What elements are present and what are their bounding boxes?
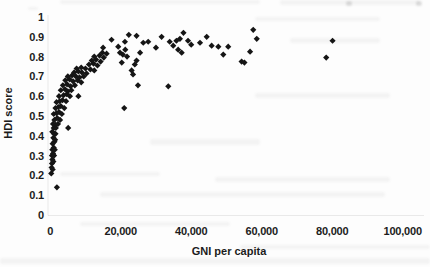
y-tick-label: 0 bbox=[38, 209, 44, 221]
data-point-marker bbox=[121, 105, 127, 111]
data-point-marker bbox=[115, 44, 121, 50]
x-tick-label: 60,000 bbox=[245, 225, 278, 237]
data-point-marker bbox=[247, 49, 253, 55]
data-point-marker bbox=[122, 39, 128, 45]
data-point-marker bbox=[140, 40, 146, 46]
data-point-marker bbox=[220, 52, 226, 58]
data-point-marker bbox=[82, 65, 88, 71]
y-axis-tick-labels: 00.10.20.30.40.50.60.70.80.91 bbox=[29, 11, 45, 221]
x-tick-label: 80,000 bbox=[316, 225, 349, 237]
y-tick-label: 0.3 bbox=[29, 150, 44, 162]
data-point-marker bbox=[215, 44, 221, 50]
data-point-marker bbox=[108, 37, 114, 43]
data-point-marker bbox=[100, 45, 106, 51]
data-point-marker bbox=[197, 40, 203, 46]
y-tick-label: 0.7 bbox=[29, 70, 44, 82]
data-point-marker bbox=[153, 45, 159, 51]
data-point-marker bbox=[65, 125, 71, 131]
y-tick-label: 0.6 bbox=[29, 90, 44, 102]
x-tick-label: 20,000 bbox=[104, 225, 137, 237]
data-point-marker bbox=[204, 34, 210, 40]
x-tick-label: 100,000 bbox=[384, 225, 422, 237]
data-point-marker bbox=[180, 30, 186, 36]
y-tick-label: 1 bbox=[38, 11, 44, 23]
x-tick-label: 40,000 bbox=[175, 225, 208, 237]
data-point-marker bbox=[329, 38, 335, 44]
data-point-marker bbox=[254, 36, 260, 42]
data-points bbox=[48, 27, 335, 191]
data-point-marker bbox=[250, 27, 256, 33]
data-point-marker bbox=[323, 54, 329, 60]
scatter-plot: 00.10.20.30.40.50.60.70.80.91 020,00040,… bbox=[0, 0, 430, 267]
y-tick-label: 0.8 bbox=[29, 51, 44, 63]
data-point-marker bbox=[137, 50, 143, 56]
data-point-marker bbox=[225, 44, 231, 50]
data-point-marker bbox=[209, 43, 215, 49]
hdi-gni-scatter-chart: 00.10.20.30.40.50.60.70.80.91 020,00040,… bbox=[0, 0, 430, 267]
data-point-marker bbox=[119, 59, 125, 65]
y-tick-label: 0.1 bbox=[29, 189, 44, 201]
data-point-marker bbox=[133, 33, 139, 39]
data-point-marker bbox=[167, 39, 173, 45]
data-point-marker bbox=[54, 184, 60, 190]
data-point-marker bbox=[170, 43, 176, 49]
data-point-marker bbox=[158, 34, 164, 40]
x-axis-tick-labels: 020,00040,00060,00080,000100,000 bbox=[47, 225, 422, 237]
y-axis-title: HDI score bbox=[2, 87, 14, 138]
y-tick-label: 0.4 bbox=[29, 130, 45, 142]
y-tick-label: 0.5 bbox=[29, 110, 44, 122]
x-tick-label: 0 bbox=[47, 225, 53, 237]
data-point-marker bbox=[165, 83, 171, 89]
data-point-marker bbox=[56, 93, 62, 99]
data-point-marker bbox=[145, 39, 151, 45]
data-point-marker bbox=[135, 82, 141, 88]
y-tick-label: 0.9 bbox=[29, 31, 44, 43]
y-tick-label: 0.2 bbox=[29, 169, 44, 181]
x-axis-title: GNI per capita bbox=[192, 245, 267, 257]
data-point-marker bbox=[126, 32, 132, 38]
data-point-marker bbox=[75, 93, 81, 99]
